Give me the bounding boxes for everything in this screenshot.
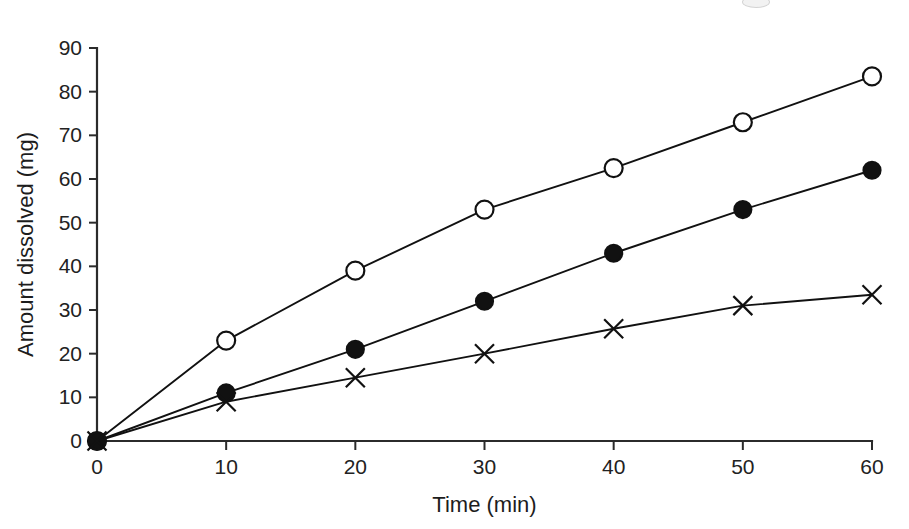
y-tick-label: 10: [59, 385, 82, 408]
x-tick-label: 10: [214, 455, 237, 478]
data-point-filled-circle: [864, 162, 881, 179]
x-tick-label: 60: [860, 455, 883, 478]
data-point-filled-circle: [218, 384, 235, 401]
data-point-filled-circle: [476, 293, 493, 310]
data-point-filled-circle: [347, 341, 364, 358]
data-point-open-circle: [605, 159, 623, 177]
data-series: [88, 67, 882, 450]
data-point-filled-circle: [734, 201, 751, 218]
x-tick-label: 20: [344, 455, 367, 478]
axis-lines: [97, 48, 872, 441]
data-point-cross: [475, 344, 494, 363]
x-tick-label: 0: [91, 455, 103, 478]
data-point-open-circle: [734, 113, 752, 131]
y-tick-label: 70: [59, 123, 82, 146]
x-axis-title: Time (min): [432, 492, 536, 517]
y-tick-label: 30: [59, 298, 82, 321]
y-tick-label: 80: [59, 80, 82, 103]
y-tick-label: 90: [59, 36, 82, 59]
data-point-filled-circle: [605, 245, 622, 262]
data-point-open-circle: [346, 262, 364, 280]
x-tick-label: 40: [602, 455, 625, 478]
y-tick-label: 60: [59, 167, 82, 190]
line-chart-canvas: 01020304050607080900102030405060 Time (m…: [0, 0, 909, 529]
series-open-circle: [88, 67, 881, 450]
axes: 01020304050607080900102030405060: [59, 36, 884, 478]
y-tick-label: 50: [59, 211, 82, 234]
series-polyline: [97, 76, 872, 441]
chart-figure: 01020304050607080900102030405060 Time (m…: [0, 0, 909, 529]
y-axis-title: Amount dissolved (mg): [13, 132, 38, 357]
series-polyline: [97, 295, 872, 441]
y-tick-label: 40: [59, 254, 82, 277]
x-tick-label: 50: [731, 455, 754, 478]
data-point-open-circle: [217, 332, 235, 350]
data-point-cross: [604, 319, 623, 338]
data-point-open-circle: [476, 201, 494, 219]
data-point-cross: [346, 368, 365, 387]
data-point-open-circle: [863, 67, 881, 85]
y-tick-label: 0: [70, 429, 82, 452]
y-tick-label: 20: [59, 342, 82, 365]
x-tick-label: 30: [473, 455, 496, 478]
